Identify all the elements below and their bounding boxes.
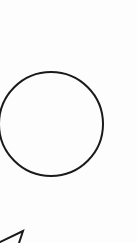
diagram-svg <box>0 0 137 243</box>
triangle-shape <box>0 231 23 243</box>
diagram-canvas <box>0 0 137 243</box>
circle-shape <box>0 72 103 176</box>
